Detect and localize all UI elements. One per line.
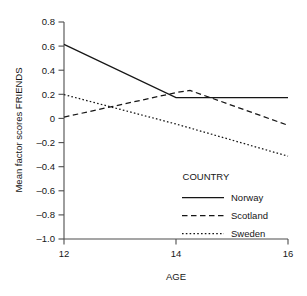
y-axis-ticks (59, 22, 65, 239)
y-tick-label: –1.0 (37, 233, 56, 244)
legend-title: COUNTRY (183, 171, 230, 182)
legend: COUNTRY Norway Scotland Sweden (182, 171, 268, 239)
y-tick-label: –0.6 (37, 185, 56, 196)
y-tick-label: 0.4 (42, 65, 55, 76)
y-tick-label: –0.2 (37, 137, 56, 148)
legend-label: Norway (231, 192, 263, 203)
legend-label: Scotland (231, 210, 268, 221)
y-tick-label: –0.8 (37, 209, 56, 220)
y-tick-label: 0.2 (42, 89, 55, 100)
series-line-sweden (64, 95, 288, 157)
series-line-scotland (64, 90, 288, 125)
legend-item-scotland: Scotland (182, 210, 268, 221)
y-tick-label: –0.4 (37, 161, 56, 172)
y-tick-label: 0.6 (42, 41, 55, 52)
x-tick-label: 14 (171, 248, 182, 259)
chart-container: 0.8 0.6 0.4 0.2 0 –0.2 –0.4 –0.6 –0.8 –1… (0, 0, 307, 296)
y-axis-title: Mean factor scores FRIENDS (13, 67, 24, 192)
y-tick-label: 0 (50, 113, 55, 124)
legend-item-sweden: Sweden (182, 228, 265, 239)
x-axis-ticks (64, 239, 288, 245)
line-chart: 0.8 0.6 0.4 0.2 0 –0.2 –0.4 –0.6 –0.8 –1… (0, 0, 307, 296)
x-tick-label: 12 (59, 248, 70, 259)
series-line-norway (64, 44, 288, 97)
x-axis-title: AGE (166, 271, 186, 282)
legend-label: Sweden (231, 228, 265, 239)
x-tick-label: 16 (283, 248, 294, 259)
legend-item-norway: Norway (182, 192, 263, 203)
y-tick-label: 0.8 (42, 16, 55, 27)
